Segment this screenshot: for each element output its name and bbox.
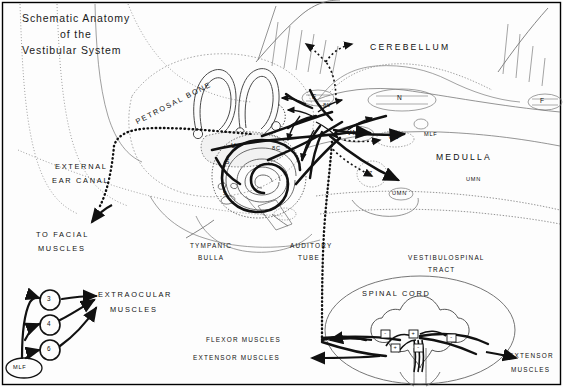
pathway-to-facial-line1: TO FACIAL — [36, 230, 89, 239]
region-vestibulospinal-tract-line1: VESTIBULOSPINAL — [408, 254, 485, 262]
label-cn6: 6 — [47, 345, 52, 353]
pathway-extraocular-line1: EXTRAOCULAR — [98, 290, 172, 299]
figure-title-line1: Schematic Anatomy — [22, 12, 130, 25]
pathway-extraocular-line2: MUSCLES — [110, 305, 158, 314]
figure-border — [3, 3, 561, 385]
label-nerve-8c: 8C — [272, 145, 281, 152]
label-mlf-origin: MLF — [13, 364, 27, 371]
anatomy-linework — [0, 0, 563, 387]
pathway-extensor-muscles-left: EXTENSOR MUSCLES — [193, 354, 280, 362]
label-cn3: 3 — [47, 295, 52, 303]
nucleus-fastigial-right: F — [540, 97, 545, 105]
region-medulla: MEDULLA — [436, 152, 492, 163]
semicircular-canals — [193, 69, 285, 139]
figure-canvas: Schematic Anatomy of the Vestibular Syst… — [0, 0, 563, 387]
pathway-extensor-muscles-right-line2: MUSCLES — [511, 366, 550, 374]
region-vestibulospinal-tract-line2: TRACT — [428, 266, 455, 274]
region-auditory-tube-line2: TUBE — [298, 254, 320, 262]
synapse-sign-2: + — [391, 344, 400, 351]
nucleus-umn-oval: UMN — [392, 190, 407, 197]
brainstem-outline — [306, 88, 560, 224]
pathway-to-facial-line2: MUSCLES — [38, 244, 86, 253]
label-ossicle: S — [223, 190, 228, 197]
region-tympanic-bulla-line1: TYMPANIC — [190, 242, 232, 250]
synapse-sign-4: - — [414, 344, 423, 351]
nucleus-umn-medulla: UMN — [466, 176, 481, 183]
nucleus-vestibular-2: VN — [388, 133, 399, 141]
nucleus-fastigial-left: F — [312, 93, 317, 101]
figure-title-line2: of the — [60, 28, 92, 41]
region-tympanic-bulla-line2: BULLA — [198, 254, 224, 262]
tentorium-hatching-right — [498, 8, 548, 86]
nucleus-mlf-brainstem: MLF — [424, 131, 438, 138]
label-cn4: 4 — [47, 320, 52, 328]
to-facial-muscles-arrow — [92, 205, 112, 222]
pathway-extensor-muscles-right-line1: EXTENSOR — [509, 352, 554, 360]
region-external-ear-canal-line2: EAR CANAL — [52, 176, 109, 185]
nucleus-vestibular-1: VN — [347, 129, 358, 137]
region-cerebellum: CEREBELLUM — [370, 42, 450, 53]
figure-title-line3: Vestibular System — [22, 44, 121, 57]
label-saccule: S — [225, 158, 230, 166]
nucleus-interposital: N — [397, 94, 403, 102]
region-auditory-tube-line1: AUDITORY — [290, 242, 332, 250]
synapse-sign-5: - — [447, 334, 456, 341]
region-external-ear-canal-line1: EXTERNAL — [55, 162, 108, 171]
synapse-sign-1: - — [381, 330, 390, 337]
label-nerve-8v: 8V — [323, 102, 331, 109]
label-utricle: U — [231, 142, 237, 150]
region-spinal-cord: SPINAL CORD — [362, 289, 431, 298]
nucleus-facial-seven: 7 — [369, 170, 373, 177]
synapse-sign-3: + — [409, 330, 418, 337]
pathway-flexor-muscles: FLEXOR MUSCLES — [206, 336, 281, 344]
dotted-branch-paths — [306, 44, 380, 176]
ossicles — [217, 182, 238, 205]
vestibulospinal-dotted-tract — [322, 142, 332, 340]
